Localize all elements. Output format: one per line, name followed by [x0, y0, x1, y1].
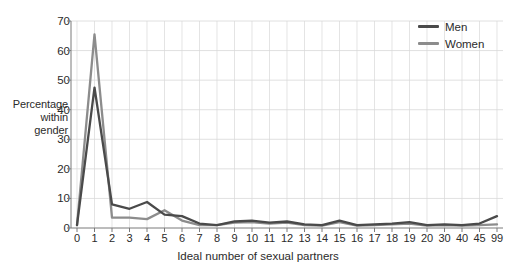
legend-label-women: Women [445, 38, 484, 50]
chart-legend: Men Women [418, 18, 484, 52]
chart-container: Percentage within gender 010203040506070… [0, 0, 516, 270]
legend-swatch-men [418, 25, 439, 28]
x-axis-label: Ideal number of sexual partners [0, 250, 516, 262]
legend-item-men: Men [418, 18, 484, 35]
legend-label-men: Men [445, 21, 467, 33]
legend-swatch-women [418, 42, 439, 45]
legend-item-women: Women [418, 35, 484, 52]
